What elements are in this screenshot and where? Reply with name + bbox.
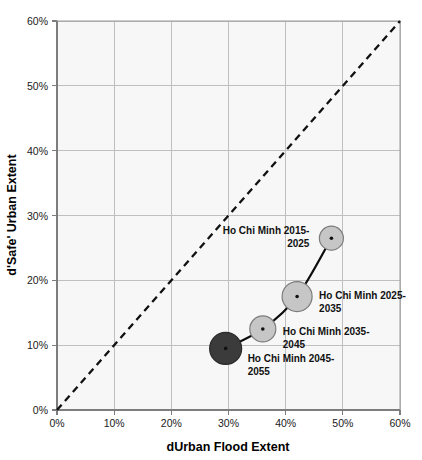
- x-axis-title: dUrban Flood Extent: [167, 440, 291, 454]
- data-point-label-line1: Ho Chi Minh 2025-: [319, 290, 406, 301]
- data-point-label-line1: Ho Chi Minh 2045-: [248, 353, 335, 364]
- x-tick-label: 60%: [389, 417, 410, 429]
- data-point-marker: [224, 347, 228, 351]
- y-tick-labels: 0%10%20%30%40%50%60%: [27, 15, 48, 416]
- y-tick-label: 0%: [33, 404, 48, 416]
- y-tick-label: 30%: [27, 210, 48, 222]
- data-point-label-line1: Ho Chi Minh 2035-: [283, 326, 370, 337]
- x-tick-label: 50%: [332, 417, 353, 429]
- y-tick-label: 10%: [27, 339, 48, 351]
- x-tick-label: 10%: [104, 417, 125, 429]
- data-point-label-line2: 2045: [283, 339, 306, 350]
- y-axis-title: d'Safe' Urban Extent: [5, 154, 19, 276]
- bubble-chart: 0%10%20%30%40%50%60% 0%10%20%30%40%50%60…: [0, 0, 422, 460]
- data-point-marker: [330, 236, 334, 240]
- y-tick-label: 40%: [27, 145, 48, 157]
- data-point-label-line2: 2035: [319, 303, 342, 314]
- y-tick-label: 20%: [27, 274, 48, 286]
- x-tick-label: 30%: [218, 417, 239, 429]
- y-tick-label: 60%: [27, 15, 48, 27]
- x-tick-label: 0%: [49, 417, 64, 429]
- x-tick-labels: 0%10%20%30%40%50%60%: [49, 417, 410, 429]
- data-point-label-line2: 2055: [248, 366, 271, 377]
- data-point-marker: [261, 327, 265, 331]
- data-point-marker: [295, 295, 299, 299]
- y-tick-label: 50%: [27, 80, 48, 92]
- data-point-label-line1: Ho Chi Minh 2015-: [223, 225, 310, 236]
- chart-canvas: 0%10%20%30%40%50%60% 0%10%20%30%40%50%60…: [0, 0, 422, 460]
- data-point-label-line2: 2025: [287, 238, 310, 249]
- x-tick-label: 40%: [275, 417, 296, 429]
- x-tick-label: 20%: [161, 417, 182, 429]
